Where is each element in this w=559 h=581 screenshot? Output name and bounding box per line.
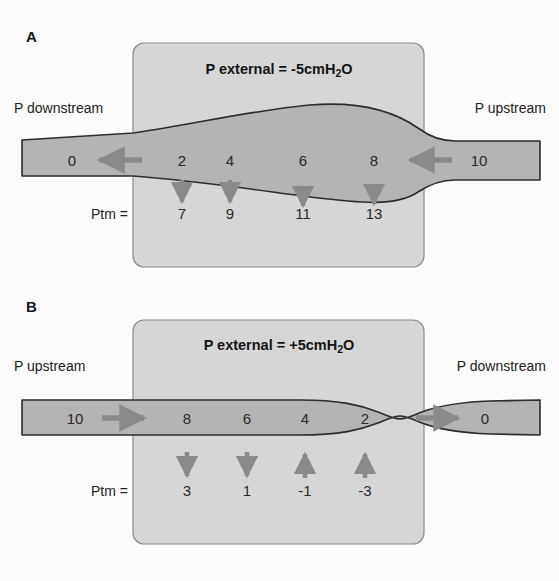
panel-b-pressure-value: 6 (243, 410, 251, 427)
panel-a-ext-suffix: O (341, 61, 352, 77)
panel-a-pressure-value: 2 (178, 152, 186, 169)
panel-a-ptm-value: 7 (178, 205, 186, 222)
panel-b-ext-prefix: P external = +5cmH (204, 337, 338, 353)
panel-a-pressure-value: 0 (68, 152, 76, 169)
panel-a-ext-prefix: P external = -5cmH (205, 61, 335, 77)
panel-a: A P external = -5cmH2O P downstream P up… (14, 28, 546, 267)
panel-b-pressure-value: 8 (183, 410, 191, 427)
figure-root: A P external = -5cmH2O P downstream P up… (0, 0, 559, 581)
panel-a-airway-lumen (22, 104, 540, 202)
panel-b-ptm-value: 1 (243, 482, 251, 499)
panel-a-pressure-value: 4 (226, 152, 234, 169)
panel-a-left-label: P downstream (14, 100, 103, 116)
panel-b-airway-lumen (22, 400, 540, 435)
panel-b-ptm-value: -3 (358, 482, 371, 499)
panel-b-letter: B (26, 298, 37, 315)
panel-b-right-label: P downstream (457, 358, 546, 374)
panel-a-external-pressure-label: P external = -5cmH2O (205, 61, 352, 79)
panel-a-ptm-value: 11 (295, 205, 311, 222)
airway-pressure-diagram: A P external = -5cmH2O P downstream P up… (0, 0, 559, 581)
panel-a-letter: A (26, 28, 37, 45)
panel-b-pressure-value: 2 (361, 410, 369, 427)
panel-b-pressure-value: 10 (67, 410, 84, 427)
panel-b-ptm-value: 3 (183, 482, 191, 499)
panel-b-ptm-value: -1 (298, 482, 311, 499)
panel-b-pressure-value: 0 (481, 410, 489, 427)
panel-b: B P external = +5cmH2O P upstream P down… (14, 298, 546, 544)
panel-b-external-pressure-label: P external = +5cmH2O (204, 337, 355, 355)
panel-b-left-label: P upstream (14, 358, 85, 374)
panel-b-pressure-value: 4 (301, 410, 309, 427)
panel-a-ptm-label: Ptm = (91, 206, 128, 222)
panel-a-ptm-value: 13 (366, 205, 383, 222)
panel-a-pressure-value: 6 (299, 152, 307, 169)
panel-a-ptm-value: 9 (226, 205, 234, 222)
panel-b-ptm-label: Ptm = (91, 483, 128, 499)
panel-b-ext-suffix: O (343, 337, 354, 353)
panel-a-pressure-value: 10 (471, 152, 488, 169)
panel-a-right-label: P upstream (475, 100, 546, 116)
panel-a-pressure-value: 8 (370, 152, 378, 169)
